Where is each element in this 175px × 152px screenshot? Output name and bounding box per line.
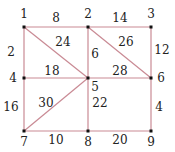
node-label: 6 xyxy=(157,71,165,85)
edge-weight-label: 4 xyxy=(155,100,163,114)
weighted-graph: 81422462612182816302241020 123456789 xyxy=(0,0,175,152)
edge-weight-label: 18 xyxy=(44,64,59,78)
edge-weight-label: 10 xyxy=(48,133,63,147)
node-label: 8 xyxy=(84,135,92,149)
edge-weight-label: 12 xyxy=(154,43,169,57)
node-label: 2 xyxy=(84,7,92,21)
edge-weight-label: 6 xyxy=(91,47,99,61)
edge-weight-label: 26 xyxy=(118,35,133,49)
node-4-dot xyxy=(23,77,26,80)
node-8-dot xyxy=(87,130,90,133)
edge-weight-label: 22 xyxy=(92,96,107,110)
node-5-dot xyxy=(87,77,90,80)
edge-weight-label: 20 xyxy=(112,133,127,147)
edge-5-7 xyxy=(24,78,88,131)
edge-weight-label: 16 xyxy=(3,100,18,114)
edge-weight-label: 28 xyxy=(112,64,127,78)
node-1-dot xyxy=(23,26,26,29)
node-label: 1 xyxy=(20,7,28,21)
edge-weight-label: 14 xyxy=(112,11,128,25)
node-label: 3 xyxy=(147,7,155,21)
node-3-dot xyxy=(150,26,153,29)
node-label: 9 xyxy=(147,135,155,149)
node-label: 4 xyxy=(9,71,17,85)
node-label: 7 xyxy=(20,135,28,149)
edge-weight-label: 24 xyxy=(55,35,71,49)
edge-weight-label: 30 xyxy=(38,96,53,110)
node-2-dot xyxy=(87,26,90,29)
node-label: 5 xyxy=(91,80,99,94)
node-9-dot xyxy=(150,130,153,133)
node-6-dot xyxy=(150,77,153,80)
edge-weight-label: 2 xyxy=(7,45,15,59)
edge-weight-label: 8 xyxy=(52,11,60,25)
node-7-dot xyxy=(23,130,26,133)
